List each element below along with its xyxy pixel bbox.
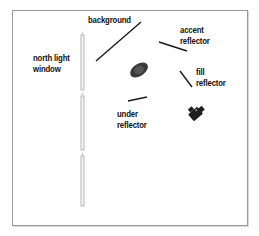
camera-icon <box>185 101 206 121</box>
label-fill-reflector-line1: fill <box>196 66 226 77</box>
label-north-light-window-line1: north light <box>33 52 70 63</box>
label-accent-reflector: accent reflector <box>180 24 210 46</box>
window-panel-3 <box>81 152 84 206</box>
north-light-window <box>81 31 84 206</box>
label-accent-reflector-line2: reflector <box>180 35 210 46</box>
label-north-light-window: north light window <box>33 52 70 74</box>
label-under-reflector-line2: reflector <box>117 119 147 130</box>
label-background: background <box>88 14 131 25</box>
under-reflector-line <box>128 97 147 101</box>
subject-icon <box>127 59 150 80</box>
window-panel-1 <box>81 31 84 90</box>
label-fill-reflector: fill reflector <box>196 66 226 88</box>
label-under-reflector-line1: under <box>117 108 147 119</box>
label-under-reflector: under reflector <box>117 108 147 130</box>
label-north-light-window-line2: window <box>33 63 70 74</box>
background-line <box>96 22 141 61</box>
label-background-line1: background <box>88 14 131 25</box>
label-accent-reflector-line1: accent <box>180 24 210 35</box>
window-panel-2 <box>81 92 84 150</box>
label-fill-reflector-line2: reflector <box>196 77 226 88</box>
fill-reflector-line <box>180 71 192 87</box>
